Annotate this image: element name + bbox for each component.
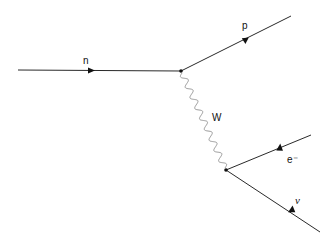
vertex-2 (224, 168, 228, 172)
label-n: n (83, 55, 89, 66)
feynman-diagram: n p W e⁻ ν (0, 0, 336, 249)
neutrino-line (226, 170, 320, 232)
electron-line (226, 135, 311, 170)
proton-arrow (242, 38, 250, 45)
electron-arrow (276, 144, 285, 154)
label-neutrino: ν (295, 194, 300, 206)
neutron-arrow (88, 68, 95, 74)
diagram-canvas: n p W e⁻ ν (0, 0, 336, 249)
label-p: p (242, 20, 248, 31)
proton-line (181, 16, 291, 71)
vertex-1 (179, 69, 183, 73)
label-w: W (212, 112, 222, 123)
neutron-line (18, 70, 181, 71)
label-electron: e⁻ (287, 154, 298, 165)
